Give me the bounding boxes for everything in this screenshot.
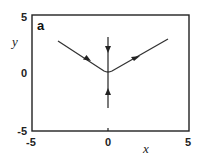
phase-portrait-chart: -5 0 5 5 0 -5 x y a <box>0 0 221 157</box>
arrow-icon <box>105 46 111 53</box>
y-tick-label: -5 <box>17 125 27 137</box>
y-tick-label: 5 <box>21 11 27 23</box>
x-tick-label: 5 <box>185 136 191 148</box>
arrowheads <box>83 46 140 95</box>
y-axis-label: y <box>10 34 18 49</box>
arrow-icon <box>131 56 140 61</box>
panel-label: a <box>37 18 45 33</box>
arrow-icon <box>105 88 111 95</box>
x-tick-label: -5 <box>26 136 36 148</box>
arrow-icon <box>83 55 91 61</box>
x-tick-label: 0 <box>105 136 111 148</box>
axes-frame <box>32 15 189 131</box>
trajectories <box>58 37 168 108</box>
y-tick-label: 0 <box>21 67 27 79</box>
x-axis-label: x <box>142 141 149 156</box>
v-curve <box>58 39 168 72</box>
